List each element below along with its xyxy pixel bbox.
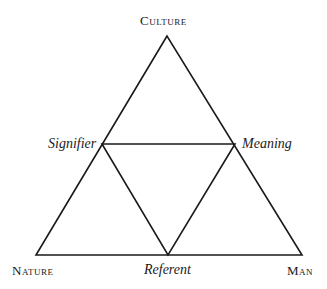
label-signifier: Signifier <box>48 137 96 151</box>
inner-triangle <box>102 144 235 255</box>
label-culture: Culture <box>140 14 187 27</box>
label-referent: Referent <box>144 263 191 277</box>
label-nature: Nature <box>12 264 53 277</box>
label-meaning: Meaning <box>242 137 292 151</box>
label-man: Man <box>287 264 313 277</box>
